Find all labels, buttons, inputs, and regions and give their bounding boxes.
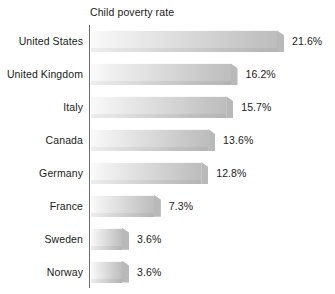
bar-value-label: 12.8% [216,166,246,179]
bar [91,129,208,151]
category-label: United Kingdom [0,68,83,81]
bar-highlight [91,63,231,64]
bar-end-cap [122,228,129,250]
bar-highlight [91,261,122,262]
bar-face [91,261,122,279]
bar-face [91,129,208,147]
bar-end-cap [277,30,284,52]
bar-value-label: 15.7% [241,101,271,114]
bar [91,162,201,184]
bar-row: Germany12.8% [0,157,335,190]
bar-base-shadow [91,48,277,52]
bar-end-cap [122,261,129,283]
bar-value-label: 16.2% [246,68,276,81]
bar-base-shadow [91,213,154,217]
bar-value-label: 7.3% [169,199,193,212]
bar-highlight [91,228,122,229]
category-label: Norway [0,265,83,278]
bar-highlight [91,129,208,130]
bar-value-label: 21.6% [292,35,322,48]
bar-face [91,63,231,81]
bar-end-cap [201,162,208,184]
bar-face [91,195,154,213]
bar-base-shadow [91,147,208,151]
bar-row: Sweden3.6% [0,222,335,255]
bar-base-shadow [91,246,122,250]
bar-highlight [91,30,277,31]
bar-highlight [91,162,201,163]
bar-end-cap [154,195,161,217]
bar-highlight [91,96,226,97]
bar-highlight [91,195,154,196]
bar-face [91,96,226,114]
bar-face [91,228,122,246]
bar [91,228,122,250]
category-label: Germany [0,166,83,179]
bar-row: Italy15.7% [0,91,335,124]
bar-base-shadow [91,114,226,118]
bar-face [91,30,277,48]
bar-end-cap [231,63,238,85]
bar [91,30,277,52]
bar-end-cap [208,129,215,151]
bar-row: Canada13.6% [0,124,335,157]
bar-base-shadow [91,180,201,184]
bar-value-label: 13.6% [223,134,253,147]
bar-row: Norway3.6% [0,255,335,288]
bar-value-label: 3.6% [137,232,161,245]
bar-row: United States21.6% [0,25,335,58]
chart-title: Child poverty rate [90,6,174,19]
bar-end-cap [226,96,233,118]
category-label: Sweden [0,232,83,245]
category-label: Canada [0,134,83,147]
bar-face [91,162,201,180]
bar-value-label: 3.6% [137,265,161,278]
bar [91,63,231,85]
category-label: France [0,199,83,212]
category-label: Italy [0,101,83,114]
bars-layer: United States21.6%United Kingdom16.2%Ita… [0,25,335,288]
bar-chart: Child poverty rate United States21.6%Uni… [0,0,335,294]
bar [91,96,226,118]
bar-base-shadow [91,81,231,85]
bar [91,261,122,283]
category-label: United States [0,35,83,48]
bar [91,195,154,217]
bar-base-shadow [91,279,122,283]
bar-row: France7.3% [0,189,335,222]
bar-row: United Kingdom16.2% [0,58,335,91]
